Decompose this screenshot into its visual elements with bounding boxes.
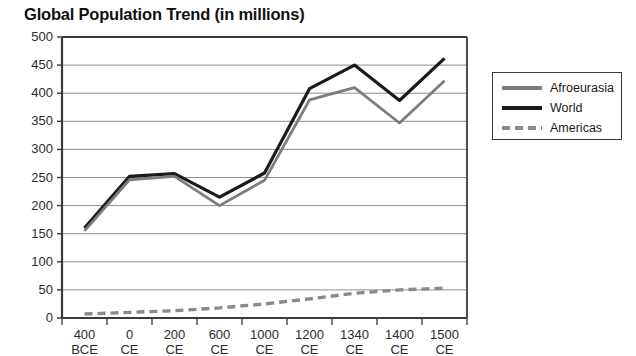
legend-swatch-afroeurasia-icon [502,86,542,90]
series-line-world [85,58,445,228]
series-line-afroeurasia [85,81,445,231]
y-tick-label: 300 [15,141,53,156]
y-tick-label: 200 [15,198,53,213]
chart-legend: Afroeurasia World Americas [492,72,622,140]
legend-label-americas: Americas [550,121,602,135]
y-tick-label: 150 [15,226,53,241]
y-tick-label: 350 [15,113,53,128]
y-tick-label: 250 [15,170,53,185]
y-tick-label: 500 [15,29,53,44]
y-tick-label: 450 [15,57,53,72]
legend-swatch-world-icon [502,106,542,110]
legend-item-world: World [502,100,582,116]
population-line-chart: Global Population Trend (in millions) 05… [0,0,636,356]
series-line-americas [85,288,445,314]
legend-label-world: World [550,101,582,115]
gridlines [62,37,467,290]
y-tick-label: 100 [15,254,53,269]
y-tick-label: 0 [15,310,53,325]
legend-swatch-americas-icon [502,126,542,130]
x-tick-label: 1500CE [418,327,472,356]
legend-label-afroeurasia: Afroeurasia [550,81,614,95]
y-tick-label: 400 [15,85,53,100]
y-tick-label: 50 [15,282,53,297]
legend-item-americas: Americas [502,120,602,136]
legend-item-afroeurasia: Afroeurasia [502,80,614,96]
data-series-group [85,58,445,314]
plot-area [0,0,636,356]
